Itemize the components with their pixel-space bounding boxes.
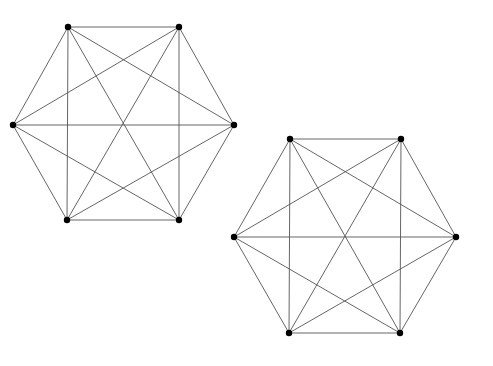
- edge: [13, 27, 68, 125]
- edge: [13, 27, 179, 125]
- edge: [234, 237, 400, 333]
- vertex: [453, 234, 459, 240]
- vertex: [176, 217, 182, 223]
- edge: [13, 125, 67, 220]
- edge: [67, 125, 234, 220]
- vertex: [64, 217, 70, 223]
- edge: [289, 139, 290, 333]
- vertex: [10, 122, 16, 128]
- vertex: [231, 122, 237, 128]
- edge: [179, 27, 234, 125]
- vertex: [286, 330, 292, 336]
- edge: [234, 139, 401, 237]
- edge: [400, 237, 456, 333]
- vertex: [398, 136, 404, 142]
- complete-graph-left: [10, 24, 237, 223]
- edge: [401, 139, 456, 237]
- edge: [289, 237, 456, 333]
- vertex: [176, 24, 182, 30]
- vertex: [65, 24, 71, 30]
- vertex: [397, 330, 403, 336]
- edge: [234, 237, 289, 333]
- complete-graph-right: [231, 136, 459, 336]
- vertex: [231, 234, 237, 240]
- edge: [179, 125, 234, 220]
- edge: [67, 27, 68, 220]
- edge: [234, 139, 290, 237]
- edge: [400, 139, 401, 333]
- edge: [289, 139, 401, 333]
- edge: [13, 125, 179, 220]
- vertex: [287, 136, 293, 142]
- diagram-canvas: [0, 0, 493, 366]
